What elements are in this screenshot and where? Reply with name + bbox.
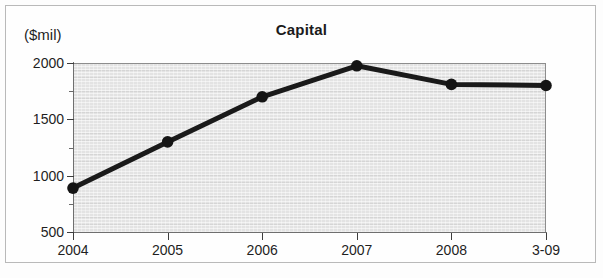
y-tick-label: 1000: [16, 168, 64, 184]
x-tick-mark: [357, 233, 358, 240]
plot-area: [73, 63, 546, 232]
y-tick-mark: [67, 119, 74, 120]
y-minor-tick-mark: [69, 204, 74, 205]
x-tick-label: 2006: [227, 242, 297, 258]
x-tick-label: 2005: [133, 242, 203, 258]
y-minor-tick-mark: [69, 148, 74, 149]
x-tick-label: 2004: [38, 242, 108, 258]
y-tick-label: 2000: [16, 55, 64, 71]
x-tick-label: 3-09: [511, 242, 581, 258]
chart-screenshot: Capital ($mil) 200015001000500 200420052…: [0, 0, 603, 278]
x-tick-label: 2007: [322, 242, 392, 258]
plot-background-texture: [73, 64, 545, 232]
y-axis-unit-label: ($mil): [24, 26, 62, 43]
y-tick-label: 500: [16, 224, 64, 240]
y-tick-mark: [67, 176, 74, 177]
x-tick-mark: [546, 233, 547, 240]
y-minor-tick-mark: [69, 91, 74, 92]
x-axis-line: [73, 232, 547, 233]
x-tick-label: 2008: [416, 242, 486, 258]
x-tick-mark: [168, 233, 169, 240]
x-tick-mark: [73, 233, 74, 240]
x-tick-mark: [262, 233, 263, 240]
y-tick-label: 1500: [16, 111, 64, 127]
chart-title: Capital: [0, 21, 603, 38]
y-tick-mark: [67, 63, 74, 64]
x-tick-mark: [451, 233, 452, 240]
